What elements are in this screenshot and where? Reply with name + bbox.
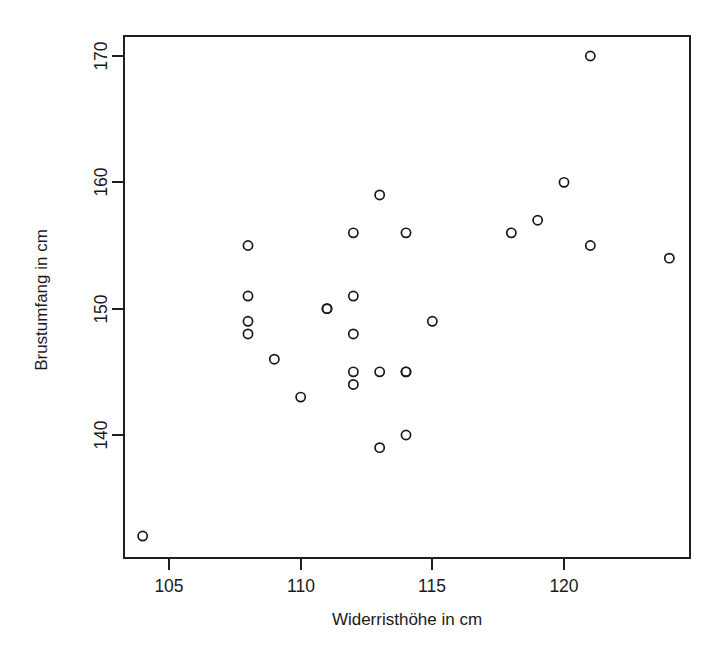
scatter-plot-figure: 170 160 150 140 105 110 115 120 Widerris… — [0, 0, 724, 646]
data-point — [243, 329, 252, 338]
data-point — [375, 443, 384, 452]
data-point — [401, 367, 410, 376]
data-points-layer — [138, 51, 674, 540]
data-point — [243, 241, 252, 250]
data-point — [375, 367, 384, 376]
data-point — [349, 329, 358, 338]
data-point — [401, 430, 410, 439]
data-point — [243, 317, 252, 326]
data-point — [138, 531, 147, 540]
y-tick-labels: 170 160 150 140 — [91, 41, 111, 449]
x-tick-label-110: 110 — [287, 576, 315, 596]
data-point — [507, 228, 516, 237]
data-point — [349, 291, 358, 300]
data-point — [428, 317, 437, 326]
data-point — [586, 51, 595, 60]
x-tick-label-105: 105 — [154, 576, 183, 596]
x-axis-title: Widerristhöhe in cm — [332, 610, 482, 629]
y-tick-label-160: 160 — [91, 167, 111, 196]
data-point — [375, 190, 384, 199]
y-tick-label-150: 150 — [91, 294, 111, 323]
y-axis-title: Brustumfang in cm — [32, 229, 51, 371]
data-point — [243, 291, 252, 300]
x-axis-ticks — [169, 558, 564, 570]
y-axis-ticks — [112, 56, 124, 435]
data-point — [296, 393, 305, 402]
data-point — [559, 178, 568, 187]
y-tick-label-170: 170 — [91, 41, 111, 70]
data-point — [322, 304, 331, 313]
data-point — [401, 228, 410, 237]
data-point — [349, 228, 358, 237]
data-point — [349, 380, 358, 389]
data-point — [533, 216, 542, 225]
x-tick-labels: 105 110 115 120 — [154, 576, 578, 596]
y-tick-label-140: 140 — [91, 420, 111, 449]
data-point — [586, 241, 595, 250]
plot-frame — [124, 36, 690, 558]
data-point — [665, 254, 674, 263]
data-point — [349, 367, 358, 376]
x-tick-label-120: 120 — [549, 576, 578, 596]
x-tick-label-115: 115 — [418, 576, 446, 596]
plot-canvas: 170 160 150 140 105 110 115 120 Widerris… — [0, 0, 724, 646]
data-point — [270, 355, 279, 364]
